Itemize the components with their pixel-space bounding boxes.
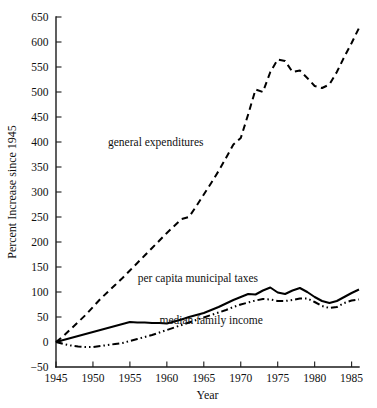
- series-line-general-expenditures: [56, 28, 359, 342]
- series-label-general-expenditures: general expenditures: [108, 136, 204, 149]
- x-tick-label: 1950: [81, 372, 104, 384]
- chart-figure: −500501001502002503003504004505005506006…: [0, 0, 377, 408]
- x-axis-group: 194519501955196019651970197519801985: [45, 362, 364, 384]
- y-tick-label: 300: [31, 186, 49, 198]
- x-tick-label: 1965: [192, 372, 215, 384]
- y-axis-ticks: [56, 17, 62, 342]
- y-tick-label: 500: [31, 86, 49, 98]
- y-tick-label: 550: [31, 61, 49, 73]
- y-tick-label: 50: [37, 311, 49, 323]
- y-tick-label: 400: [31, 136, 49, 148]
- x-axis-title: Year: [196, 388, 218, 402]
- x-tick-label: 1955: [118, 372, 141, 384]
- y-axis-group: −500501001502002503003504004505005506006…: [31, 11, 62, 373]
- y-tick-label: 150: [31, 261, 49, 273]
- y-tick-label: 250: [31, 211, 49, 223]
- y-tick-label: 0: [43, 336, 49, 348]
- y-axis-tick-labels: −500501001502002503003504004505005506006…: [31, 11, 49, 373]
- x-tick-label: 1960: [155, 372, 178, 384]
- series-label-per-capita-municipal-taxes: per capita municipal taxes: [138, 272, 259, 285]
- x-tick-label: 1985: [340, 372, 363, 384]
- x-axis-ticks: [56, 362, 352, 368]
- x-tick-label: 1970: [229, 372, 252, 384]
- series-lines: [56, 28, 359, 347]
- x-tick-label: 1980: [303, 372, 326, 384]
- series-label-median-family-income: median family income: [159, 314, 262, 327]
- y-tick-label: 200: [31, 236, 49, 248]
- y-tick-label: 600: [31, 36, 49, 48]
- y-axis-title: Percent Increase since 1945: [5, 125, 19, 259]
- y-tick-label: 450: [31, 111, 49, 123]
- x-tick-label: 1975: [266, 372, 289, 384]
- y-tick-label: 650: [31, 11, 49, 23]
- line-chart: −500501001502002503003504004505005506006…: [0, 0, 377, 408]
- y-tick-label: 350: [31, 161, 49, 173]
- x-axis-tick-labels: 194519501955196019651970197519801985: [45, 372, 364, 384]
- y-tick-label: 100: [31, 286, 49, 298]
- x-tick-label: 1945: [45, 372, 68, 384]
